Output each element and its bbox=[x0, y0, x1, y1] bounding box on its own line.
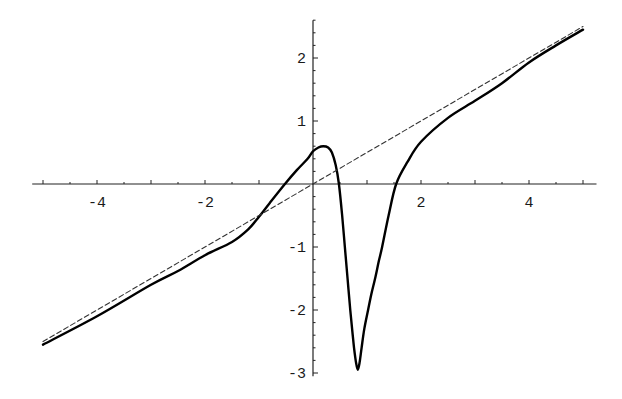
x-tick-label: -4 bbox=[88, 195, 106, 212]
x-tick-label: -2 bbox=[196, 195, 214, 212]
y-tick-label: -1 bbox=[288, 240, 306, 257]
y-tick-label: -2 bbox=[288, 303, 306, 320]
y-tick-label: 1 bbox=[297, 114, 306, 131]
x-tick-label: 4 bbox=[524, 195, 533, 212]
y-tick-label: -3 bbox=[288, 366, 306, 383]
tick-labels: -4-224-3-2-112 bbox=[88, 51, 534, 383]
plot-canvas: -4-224-3-2-112 bbox=[0, 0, 622, 399]
x-tick-label: 2 bbox=[416, 195, 425, 212]
y-tick-label: 2 bbox=[297, 51, 306, 68]
